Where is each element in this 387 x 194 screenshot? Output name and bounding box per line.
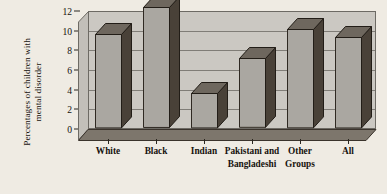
bar-chart: Percentages of children with mental diso… (0, 0, 387, 194)
x-axis-tick-mark (252, 139, 253, 144)
y-axis-tick-label: 10 (62, 25, 72, 36)
x-axis-tick-mark (156, 139, 157, 144)
bar (143, 0, 179, 129)
x-axis-tick-mark (204, 139, 205, 144)
y-axis-tick-label: 6 (67, 65, 72, 76)
bar-shape (143, 0, 181, 129)
bar-shape (287, 18, 325, 129)
y-axis-tick-label: 0 (67, 124, 72, 135)
x-axis: WhiteBlackIndianPakistani and Bangladesh… (78, 145, 383, 191)
y-axis: 024681012 (52, 0, 80, 150)
bar (239, 49, 275, 129)
bar-shape (239, 47, 277, 129)
x-axis-tick-label: All (303, 145, 387, 158)
x-axis-tick-mark (108, 139, 109, 144)
bar (335, 28, 371, 129)
x-axis-tick-mark (348, 139, 349, 144)
plot-area (78, 11, 376, 139)
x-axis-tick-mark (300, 139, 301, 144)
y-axis-tick-label: 8 (67, 45, 72, 56)
bar-shape (191, 82, 229, 129)
y-axis-title-line-1: Percentages of children with (22, 38, 33, 146)
bar-shape (95, 23, 133, 129)
y-axis-tick-label: 12 (62, 6, 72, 17)
bar-shape (335, 26, 373, 129)
y-axis-title-line-2: mental disorder (33, 63, 44, 122)
bar (95, 25, 131, 129)
bar (287, 20, 323, 129)
y-axis-title: Percentages of children with mental diso… (16, 12, 50, 172)
bar (191, 84, 227, 129)
y-axis-tick-label: 2 (67, 104, 72, 115)
bars-layer (78, 11, 376, 140)
y-axis-tick-label: 4 (67, 84, 72, 95)
